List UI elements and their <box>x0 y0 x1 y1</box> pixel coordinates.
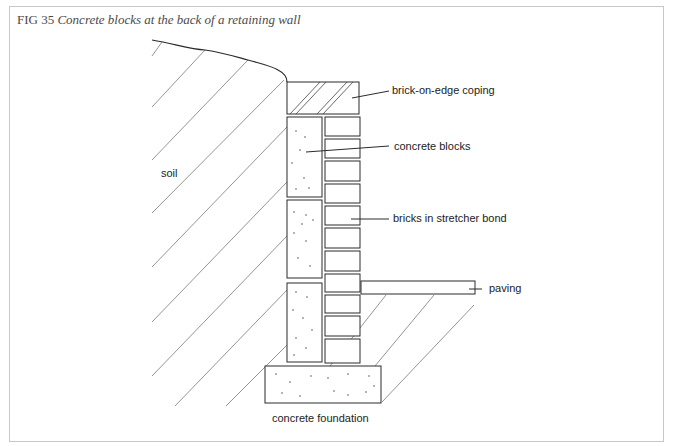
label-soil: soil <box>161 167 178 179</box>
retaining-wall-diagram <box>0 0 680 446</box>
label-coping: brick-on-edge coping <box>392 84 495 96</box>
label-foundation: concrete foundation <box>272 412 369 424</box>
label-paving: paving <box>489 282 521 294</box>
paving-slab <box>361 281 475 294</box>
label-concrete-blocks: concrete blocks <box>394 140 470 152</box>
concrete-blocks <box>287 117 322 362</box>
concrete-foundation <box>265 366 381 403</box>
brick-on-edge-coping <box>287 82 359 114</box>
label-bricks: bricks in stretcher bond <box>393 212 507 224</box>
bricks <box>325 117 360 363</box>
soil-surface <box>152 40 287 82</box>
